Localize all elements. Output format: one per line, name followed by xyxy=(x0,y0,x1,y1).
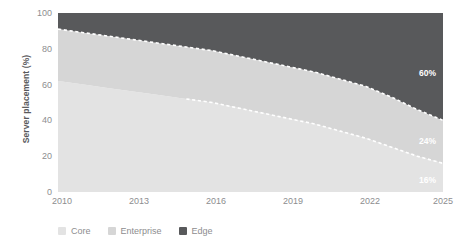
legend-swatch-enterprise xyxy=(108,227,116,235)
x-tick-label: 2025 xyxy=(423,196,463,206)
stacked-area-chart: Server placement (%) 100 80 60 40 20 0 6… xyxy=(0,0,465,248)
x-axis-ticks: 2010 2013 2016 2019 2022 2025 xyxy=(0,196,465,212)
legend-label-edge: Edge xyxy=(192,227,213,236)
legend-item-core[interactable]: Core xyxy=(58,227,91,236)
x-tick-label: 2013 xyxy=(119,196,159,206)
legend-label-core: Core xyxy=(71,227,91,236)
area-series-svg xyxy=(58,13,443,192)
value-label-core: 16% xyxy=(419,175,436,185)
chart-legend: Core Enterprise Edge xyxy=(58,224,213,238)
legend-item-enterprise[interactable]: Enterprise xyxy=(108,227,162,236)
y-tick-label: 60 xyxy=(26,81,52,90)
legend-swatch-core xyxy=(58,227,66,235)
legend-label-enterprise: Enterprise xyxy=(121,227,162,236)
y-tick-label: 40 xyxy=(26,116,52,125)
x-tick-label: 2019 xyxy=(273,196,313,206)
x-tick-label: 2010 xyxy=(42,196,82,206)
legend-swatch-edge xyxy=(179,227,187,235)
y-tick-label: 80 xyxy=(26,45,52,54)
legend-item-edge[interactable]: Edge xyxy=(179,227,213,236)
plot-area: 60% 24% 16% xyxy=(58,13,443,192)
x-tick-label: 2016 xyxy=(196,196,236,206)
value-label-edge: 60% xyxy=(419,68,436,78)
value-label-enterprise: 24% xyxy=(419,136,436,146)
x-tick-label: 2022 xyxy=(350,196,390,206)
y-tick-label: 20 xyxy=(26,152,52,161)
y-tick-label: 100 xyxy=(26,9,52,18)
